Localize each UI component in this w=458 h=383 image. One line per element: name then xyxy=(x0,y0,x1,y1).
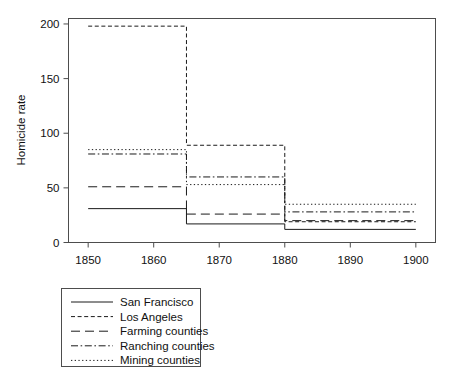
legend-item-label: Los Angeles xyxy=(120,311,183,323)
x-tick-label: 1880 xyxy=(272,254,298,266)
homicide-rate-chart: Homicide rate 050100150200 1850186018701… xyxy=(0,0,458,383)
legend-item-label: San Francisco xyxy=(120,296,194,308)
y-tick-label: 100 xyxy=(40,127,59,139)
x-tick-label: 1870 xyxy=(206,254,232,266)
legend-item-label: Mining counties xyxy=(120,354,200,366)
x-tick-label: 1860 xyxy=(141,254,167,266)
x-tick-label: 1900 xyxy=(403,254,429,266)
y-tick-label: 0 xyxy=(53,237,59,249)
chart-canvas: Homicide rate 050100150200 1850186018701… xyxy=(0,0,458,383)
x-tick-label: 1890 xyxy=(338,254,364,266)
y-axis-title: Homicide rate xyxy=(15,95,27,166)
x-tick-label: 1850 xyxy=(75,254,101,266)
y-tick-label: 150 xyxy=(40,73,59,85)
legend-item-label: Ranching counties xyxy=(120,340,215,352)
legend-item-label: Farming counties xyxy=(120,325,208,337)
y-tick-label: 50 xyxy=(47,182,60,194)
y-tick-label: 200 xyxy=(40,18,59,30)
